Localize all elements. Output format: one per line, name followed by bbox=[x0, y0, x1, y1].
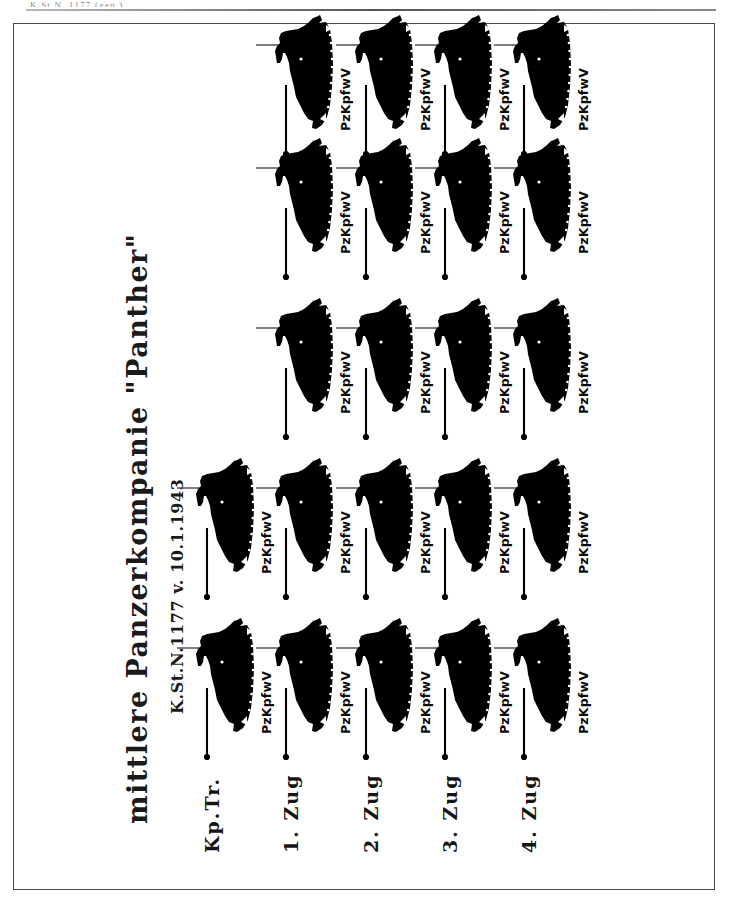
tank-silhouette-icon bbox=[336, 13, 422, 163]
tank-unit-zug-1-1[interactable]: PzKpfwV bbox=[256, 616, 342, 766]
tank-unit-zug-3-5[interactable]: PzKpfwV bbox=[415, 13, 501, 163]
tank-silhouette-icon bbox=[256, 456, 342, 606]
tank-unit-kompanietrupp-1[interactable]: PzKpfwV bbox=[177, 616, 263, 766]
tank-unit-zug-3-3[interactable]: PzKpfwV bbox=[415, 296, 501, 446]
tank-unit-zug-2-1[interactable]: PzKpfwV bbox=[336, 616, 422, 766]
tank-silhouette-icon bbox=[256, 296, 342, 446]
tank-silhouette-icon bbox=[494, 456, 580, 606]
tank-silhouette-icon bbox=[415, 456, 501, 606]
tank-silhouette-icon bbox=[415, 13, 501, 163]
tank-unit-zug-4-2[interactable]: PzKpfwV bbox=[494, 456, 580, 606]
tank-unit-zug-3-2[interactable]: PzKpfwV bbox=[415, 456, 501, 606]
tank-silhouette-icon bbox=[415, 616, 501, 766]
tank-unit-label-zug-4-5: PzKpfwV bbox=[576, 68, 591, 131]
tank-silhouette-icon bbox=[494, 616, 580, 766]
tank-silhouette-icon bbox=[494, 296, 580, 446]
unit-grid: Kp.Tr. PzKpfwV bbox=[14, 24, 714, 889]
tank-silhouette-icon bbox=[336, 456, 422, 606]
row-label-zug-2: 2. Zug bbox=[360, 774, 382, 853]
tank-silhouette-icon bbox=[256, 616, 342, 766]
tank-silhouette-icon bbox=[415, 296, 501, 446]
row-label-zug-3: 3. Zug bbox=[439, 774, 461, 853]
scan-header-text: K.St.N. 1177 (gep.) bbox=[30, 0, 450, 7]
tank-unit-zug-3-1[interactable]: PzKpfwV bbox=[415, 616, 501, 766]
unit-row-zug-4: 4. Zug PzKpfwV bbox=[494, 24, 574, 889]
tank-silhouette-icon bbox=[494, 13, 580, 163]
unit-row-zug-2: 2. Zug PzKpfwV bbox=[336, 24, 416, 889]
tank-silhouette-icon bbox=[336, 616, 422, 766]
tank-silhouette-icon bbox=[177, 456, 263, 606]
tank-unit-zug-1-3[interactable]: PzKpfwV bbox=[256, 296, 342, 446]
tank-unit-zug-1-5[interactable]: PzKpfwV bbox=[256, 13, 342, 163]
tank-unit-kompanietrupp-2[interactable]: PzKpfwV bbox=[177, 456, 263, 606]
tank-unit-label-zug-4-1: PzKpfwV bbox=[576, 671, 591, 734]
tank-silhouette-icon bbox=[177, 616, 263, 766]
tank-unit-zug-2-2[interactable]: PzKpfwV bbox=[336, 456, 422, 606]
row-label-kompanietrupp: Kp.Tr. bbox=[201, 777, 223, 853]
tank-silhouette-icon bbox=[256, 13, 342, 163]
tank-unit-zug-4-3[interactable]: PzKpfwV bbox=[494, 296, 580, 446]
unit-row-zug-3: 3. Zug PzKpfwV bbox=[415, 24, 495, 889]
row-label-zug-4: 4. Zug bbox=[518, 774, 540, 853]
scan-header-rule bbox=[26, 9, 716, 11]
unit-row-kompanietrupp: Kp.Tr. PzKpfwV bbox=[177, 24, 257, 889]
tank-unit-label-zug-4-4: PzKpfwV bbox=[576, 191, 591, 254]
tank-unit-zug-4-1[interactable]: PzKpfwV bbox=[494, 616, 580, 766]
tank-unit-label-zug-4-2: PzKpfwV bbox=[576, 511, 591, 574]
tank-silhouette-icon bbox=[336, 296, 422, 446]
unit-row-zug-1: 1. Zug PzKpfwV bbox=[256, 24, 336, 889]
chart-frame: mittlere Panzerkompanie "Panther" K.St.N… bbox=[13, 23, 715, 890]
tank-unit-zug-2-3[interactable]: PzKpfwV bbox=[336, 296, 422, 446]
row-label-zug-1: 1. Zug bbox=[280, 774, 302, 853]
tank-unit-label-zug-4-3: PzKpfwV bbox=[576, 351, 591, 414]
tank-unit-zug-1-2[interactable]: PzKpfwV bbox=[256, 456, 342, 606]
tank-unit-zug-4-5[interactable]: PzKpfwV bbox=[494, 13, 580, 163]
tank-unit-zug-2-5[interactable]: PzKpfwV bbox=[336, 13, 422, 163]
